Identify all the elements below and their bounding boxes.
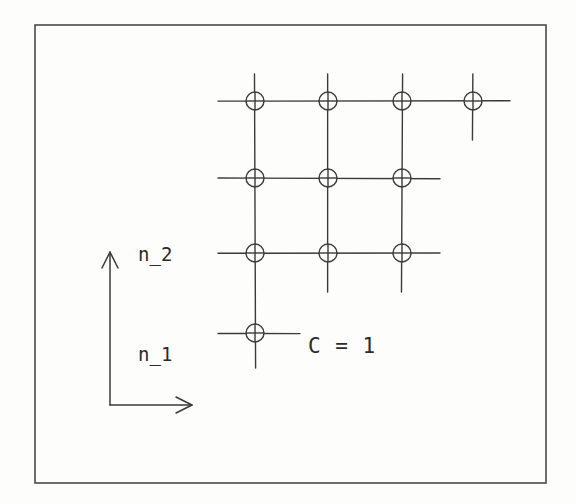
lattice-vertical-lines [254,74,472,368]
lattice-node[interactable] [246,244,264,262]
lattice-node[interactable] [319,169,337,187]
lattice-node[interactable] [393,244,411,262]
lattice-nodes [246,92,482,342]
lattice-node[interactable] [393,92,411,110]
axis-label-n2: n_2 [138,245,172,264]
lattice-node[interactable] [246,92,264,110]
figure-page: n_2 n_1 C = 1 [0,0,576,504]
lattice-figure-svg [0,0,576,504]
caption-constant-c: C = 1 [308,336,376,357]
lattice-node[interactable] [319,244,337,262]
lattice-horizontal-lines [218,101,510,334]
lattice-node[interactable] [464,92,482,110]
lattice-node[interactable] [246,169,264,187]
coordinate-axes [102,252,192,413]
lattice-node[interactable] [393,169,411,187]
lattice-node[interactable] [319,92,337,110]
axis-label-n1: n_1 [138,345,172,364]
lattice-node[interactable] [246,324,264,342]
